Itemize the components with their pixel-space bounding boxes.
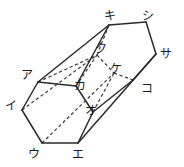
edge-a-i: [22, 82, 38, 110]
vertex-label-shi: シ: [142, 10, 154, 22]
edge-ko-o: [93, 80, 133, 112]
solid-edge-group: [22, 22, 156, 143]
vertex-label-ki: キ: [104, 10, 116, 22]
vertex-label-ka: カ: [74, 80, 86, 92]
vertex-label-e: エ: [72, 149, 84, 161]
edge-ka-a: [38, 82, 76, 86]
vertex-label-a: ア: [21, 69, 33, 81]
vertex-label-ku: ク: [95, 43, 107, 55]
edge-shi-sa: [146, 22, 156, 54]
vertex-label-ke: ケ: [110, 63, 122, 75]
vertex-label-ko: コ: [141, 83, 153, 95]
vertex-label-u: ウ: [28, 148, 40, 160]
prism-drawing: [0, 0, 184, 167]
vertex-label-i: イ: [5, 100, 17, 112]
hexagonal-prism-figure: アイウエオカキクケコサシ: [0, 0, 184, 167]
edge-i-u: [22, 110, 42, 143]
vertex-label-o: オ: [85, 105, 97, 117]
vertex-label-sa: サ: [160, 48, 172, 60]
